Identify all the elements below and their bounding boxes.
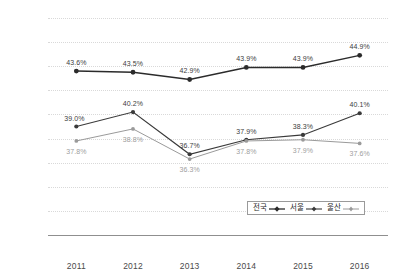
- data-point-marker: [244, 139, 248, 143]
- data-point-label: 42.9%: [179, 67, 199, 74]
- legend-label-0: 전국: [253, 204, 267, 212]
- data-point-label: 37.9%: [236, 127, 256, 134]
- chart-legend[interactable]: 전국 서울 울산: [247, 201, 365, 215]
- series-line: [76, 112, 359, 154]
- data-point-marker: [358, 111, 362, 115]
- data-point-marker: [187, 77, 192, 82]
- line-chart: 48.046.044.042.040.038.036.034.032.030.0…: [0, 0, 400, 272]
- data-point-label: 43.9%: [236, 55, 256, 62]
- data-point-label: 43.9%: [293, 55, 313, 62]
- x-axis-tick-label: 2011: [51, 261, 101, 271]
- data-point-marker: [358, 141, 362, 145]
- data-point-marker: [131, 127, 135, 131]
- x-axis-tick-label: 2012: [108, 261, 158, 271]
- data-point-label: 37.8%: [236, 147, 256, 154]
- data-point-label: 40.2%: [123, 100, 143, 107]
- data-point-marker: [244, 65, 249, 70]
- data-point-marker: [74, 139, 78, 143]
- data-point-label: 43.6%: [66, 59, 86, 66]
- data-point-label: 40.1%: [349, 101, 369, 108]
- x-axis-tick-label: 2013: [165, 261, 215, 271]
- data-point-marker: [301, 138, 305, 142]
- data-point-label: 37.8%: [66, 147, 86, 154]
- x-axis-tick-label: 2014: [221, 261, 271, 271]
- x-axis-tick-label: 2015: [278, 261, 328, 271]
- data-point-label: 38.3%: [293, 122, 313, 129]
- x-axis-line: [48, 235, 388, 236]
- line-marker-diamond-icon: [343, 199, 359, 217]
- legend-label-2: 울산: [327, 204, 341, 212]
- data-point-marker: [74, 124, 78, 128]
- data-point-label: 44.9%: [349, 43, 369, 50]
- data-point-marker: [301, 65, 306, 70]
- data-point-label: 37.9%: [293, 146, 313, 153]
- data-point-label: 39.0%: [64, 114, 84, 121]
- legend-item-1[interactable]: 서울: [290, 199, 322, 217]
- legend-item-0[interactable]: 전국: [253, 199, 285, 217]
- data-point-marker: [74, 69, 79, 74]
- series-line: [76, 129, 359, 159]
- data-point-label: 36.7%: [179, 142, 199, 149]
- data-point-label: 38.8%: [123, 135, 143, 142]
- data-point-marker: [357, 53, 362, 58]
- data-point-label: 43.5%: [123, 60, 143, 67]
- data-point-marker: [188, 157, 192, 161]
- legend-label-1: 서울: [290, 204, 304, 212]
- line-marker-diamond-icon: [269, 199, 285, 217]
- series-line: [76, 55, 359, 79]
- line-marker-diamond-icon: [306, 199, 322, 217]
- data-point-marker: [301, 133, 305, 137]
- data-point-marker: [131, 70, 136, 75]
- x-axis-tick-label: 2016: [335, 261, 385, 271]
- data-point-label: 36.3%: [179, 166, 199, 173]
- data-point-label: 37.6%: [349, 150, 369, 157]
- chart-title: [0, 0, 400, 7]
- data-point-marker: [131, 110, 135, 114]
- legend-item-2[interactable]: 울산: [327, 199, 359, 217]
- data-point-marker: [188, 152, 192, 156]
